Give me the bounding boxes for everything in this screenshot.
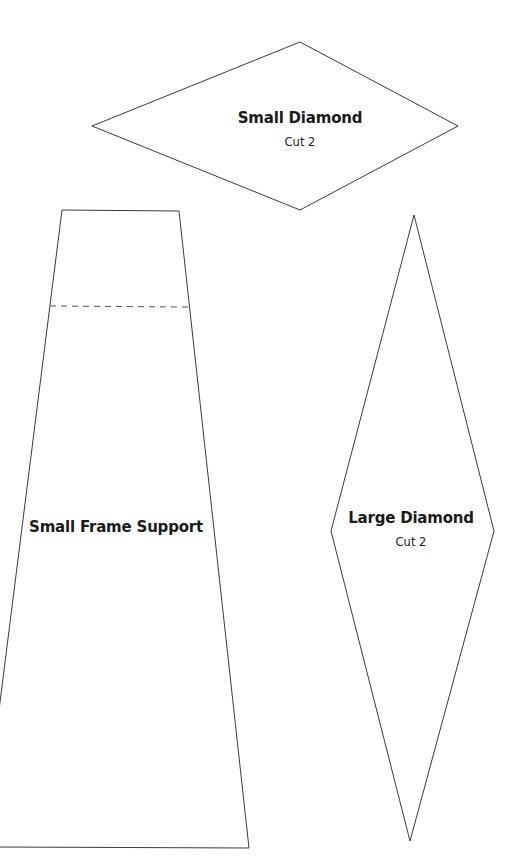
pattern-canvas (0, 0, 529, 865)
small-diamond-title: Small Diamond (238, 109, 363, 127)
small-diamond-cut-instruction: Cut 2 (285, 135, 316, 149)
small-frame-support-title: Small Frame Support (29, 518, 203, 536)
large-diamond-shape (331, 215, 494, 841)
large-diamond-title: Large Diamond (348, 509, 474, 527)
large-diamond-cut-instruction: Cut 2 (396, 535, 427, 549)
